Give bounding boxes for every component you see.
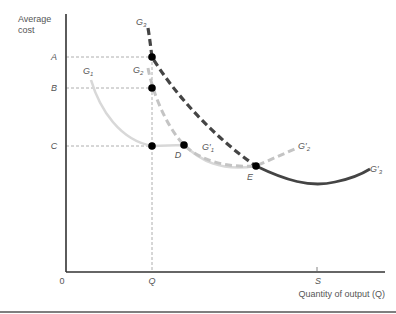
tick-C: C <box>51 141 58 151</box>
label-D: D <box>175 150 182 160</box>
tick-A: A <box>50 52 57 62</box>
tick-Q: Q <box>148 276 155 286</box>
point-D <box>180 141 188 149</box>
label-G3-prime: G′3 <box>370 164 383 175</box>
point-E <box>252 162 260 170</box>
guide-lines <box>66 57 152 272</box>
point-A <box>148 53 156 61</box>
y-axis-label-2: cost <box>18 25 35 35</box>
tick-S: S <box>315 276 321 286</box>
label-G1-prime: G′1 <box>202 142 214 153</box>
curve-G1 <box>91 80 256 168</box>
label-G3: G3 <box>136 17 147 28</box>
curve-G3-solid <box>256 166 370 184</box>
points <box>148 53 260 170</box>
label-E: E <box>247 172 254 182</box>
label-G1: G1 <box>83 66 93 77</box>
label-G2-prime: G′2 <box>298 141 311 152</box>
label-G2: G2 <box>133 65 144 76</box>
x-axis-label: Quantity of output (Q) <box>298 289 385 299</box>
tick-B: B <box>51 83 57 93</box>
average-cost-chart: Average cost Quantity of output (Q) A B … <box>0 0 396 314</box>
y-axis-label-1: Average <box>18 14 51 24</box>
tick-0: 0 <box>59 276 64 286</box>
point-C <box>148 142 156 150</box>
point-B <box>148 84 156 92</box>
